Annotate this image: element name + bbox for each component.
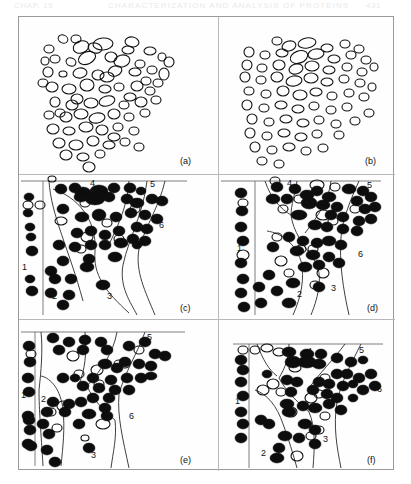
svg-text:5: 5 [367, 180, 372, 190]
panel-c-filled-spots [23, 183, 168, 310]
panel-a-spots [38, 33, 174, 172]
svg-text:4: 4 [82, 333, 87, 343]
svg-text:1: 1 [22, 262, 27, 272]
panel-e: 1 2 3 4 5 6 (e) [19, 320, 218, 471]
panel-e-plot: 1 2 3 4 5 6 (e) [19, 320, 218, 471]
panel-d: 1 2 3 4 5 6 (d) [219, 175, 395, 319]
panel-a-plot: (a) [19, 17, 218, 174]
panel-c-plot: 1 2 3 4 5 6 (c) [19, 175, 218, 319]
svg-text:4: 4 [287, 178, 292, 188]
header-left-text: CHAP. 15 [14, 0, 53, 12]
header-center-text: CHARACTERIZATION AND ANALYSIS OF PROTEIN… [108, 0, 349, 12]
panel-f: 1 2 3 4 5 6 (f) [219, 320, 395, 471]
svg-text:2: 2 [52, 291, 57, 301]
figure-frame: (a) [18, 16, 394, 470]
panel-c: 1 2 3 4 5 6 (c) [19, 175, 218, 319]
svg-text:4: 4 [90, 178, 95, 188]
panel-f-plot: 1 2 3 4 5 6 (f) [219, 320, 395, 471]
panel-a: (a) [19, 17, 218, 174]
svg-text:2: 2 [297, 289, 302, 299]
panel-b-spots [240, 37, 378, 168]
panel-b-label: (b) [365, 156, 376, 166]
svg-text:3: 3 [107, 291, 112, 301]
svg-text:1: 1 [237, 243, 242, 253]
panel-e-label: (e) [180, 455, 191, 465]
svg-text:4: 4 [307, 346, 312, 356]
panel-b: (b) [219, 17, 395, 174]
svg-text:6: 6 [159, 220, 164, 230]
svg-text:3: 3 [331, 283, 336, 293]
svg-text:6: 6 [377, 384, 382, 394]
panel-c-label: (c) [180, 303, 191, 313]
running-header: CHAP. 15 CHARACTERIZATION AND ANALYSIS O… [0, 0, 411, 13]
svg-text:6: 6 [358, 249, 363, 259]
panel-d-plot: 1 2 3 4 5 6 (d) [219, 175, 395, 319]
svg-text:5: 5 [150, 179, 155, 189]
panel-d-label: (d) [367, 303, 378, 313]
svg-text:2: 2 [41, 394, 46, 404]
header-page-number: 431 [366, 0, 381, 12]
panel-b-plot: (b) [219, 17, 395, 174]
svg-text:3: 3 [91, 450, 96, 460]
svg-text:3: 3 [323, 434, 328, 444]
panel-f-label: (f) [367, 455, 376, 465]
svg-text:5: 5 [359, 345, 364, 355]
svg-text:1: 1 [21, 390, 26, 400]
panel-a-label: (a) [180, 156, 191, 166]
svg-text:5: 5 [147, 332, 152, 342]
svg-text:2: 2 [261, 448, 266, 458]
svg-text:6: 6 [129, 411, 134, 421]
panel-f-filled-spots [235, 347, 381, 463]
svg-text:1: 1 [235, 396, 240, 406]
